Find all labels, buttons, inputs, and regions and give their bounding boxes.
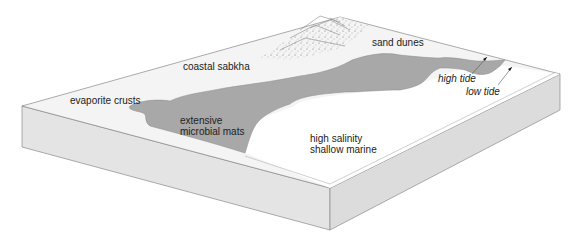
- label-sand-dunes: sand dunes: [372, 37, 424, 48]
- label-microbial-mats-1: extensive: [180, 115, 222, 126]
- label-low-tide: low tide: [466, 86, 500, 97]
- label-high-tide: high tide: [438, 73, 476, 84]
- label-marine-1: high salinity: [310, 133, 362, 144]
- label-microbial-mats-2: microbial mats: [180, 126, 244, 137]
- label-evaporite-crusts: evaporite crusts: [70, 95, 141, 106]
- label-coastal-sabkha: coastal sabkha: [183, 61, 250, 72]
- block-diagram: [0, 0, 581, 239]
- label-marine-2: shallow marine: [310, 144, 377, 155]
